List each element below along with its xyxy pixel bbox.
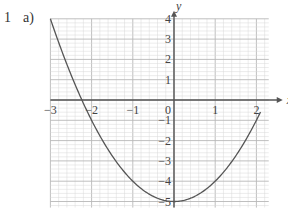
graph: −3−2−1124321−1−2−3−4−50 x y bbox=[0, 0, 288, 211]
tick-labels: −3−2−1124321−1−2−3−4−50 bbox=[44, 12, 259, 209]
x-axis-label: x bbox=[286, 93, 288, 107]
origin-label: 0 bbox=[165, 103, 171, 117]
x-axis-arrow-icon bbox=[277, 97, 283, 103]
x-tick-label: −3 bbox=[44, 103, 57, 117]
y-tick-label: −3 bbox=[158, 154, 171, 168]
y-tick-label: 4 bbox=[165, 12, 171, 26]
parabola-curve bbox=[50, 19, 260, 202]
y-axis-label: y bbox=[175, 0, 182, 13]
y-tick-label: 1 bbox=[165, 73, 171, 87]
y-tick-label: 2 bbox=[165, 52, 171, 66]
x-tick-label: −1 bbox=[126, 103, 139, 117]
y-tick-label: −2 bbox=[158, 134, 171, 148]
y-tick-label: 3 bbox=[165, 32, 171, 46]
x-tick-label: 1 bbox=[212, 103, 218, 117]
y-tick-label: −4 bbox=[158, 174, 171, 188]
